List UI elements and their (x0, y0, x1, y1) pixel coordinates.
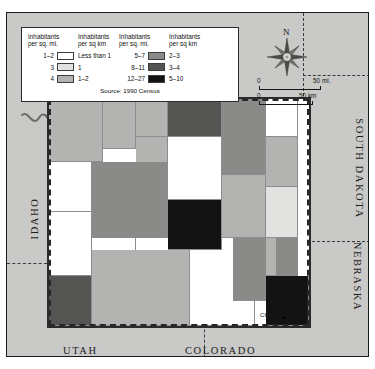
legend-row: 41–2 (28, 74, 111, 83)
legend-row: 12–275–10 (119, 74, 200, 83)
legend-range-per-sq-mi: 1–2 (28, 52, 54, 59)
legend-columns: Inhabitantsper sq. mi.Inhabitantsper sq … (28, 33, 232, 83)
state-label-nebraska: NEBRASKA (352, 237, 363, 317)
county-uinta (49, 276, 92, 326)
state-label-south-dakota: SOUTH DAKOTA (354, 114, 365, 224)
legend-row: 5–72–3 (119, 51, 200, 60)
legend-range-per-sq-mi: 8–11 (119, 64, 145, 71)
legend-range-per-sq-km: 5–10 (169, 75, 183, 82)
county-laramie (266, 276, 309, 326)
legend-swatch (148, 75, 165, 83)
legend-row: 1–2Less than 1 (28, 51, 111, 60)
county-big-horn (103, 99, 136, 149)
scale-km-zero: 0 (257, 92, 261, 99)
county-park (49, 99, 103, 162)
legend-column-2-headers: Inhabitantsper sq. mi.Inhabitantsper sq … (119, 33, 200, 51)
state-label-colorado: COLORADO (185, 345, 256, 356)
legend-range-per-sq-km: 1–2 (78, 75, 89, 82)
legend-range-per-sq-mi: 12–27 (119, 75, 145, 82)
scale-miles-zero: 0 (257, 77, 261, 84)
scale-kilometers: 0 50 km (257, 92, 347, 104)
compass-and-scale: N (255, 27, 347, 102)
county-johnson (168, 137, 222, 200)
scale-km-unit: 50 km (299, 92, 316, 99)
county-sweetwater (92, 250, 190, 326)
county-converse (222, 175, 265, 238)
legend-row: 31 (28, 63, 111, 72)
legend-header-per-sq-mi: Inhabitantsper sq. mi. (119, 33, 148, 48)
county-teton (49, 162, 92, 212)
legend-header-per-sq-km: Inhabitantsper sq km (169, 33, 200, 48)
county-niobrara (266, 187, 299, 237)
legend-column-1: Inhabitantsper sq. mi.Inhabitantsper sq … (28, 33, 111, 83)
state-label-idaho: IDAHO (29, 184, 40, 254)
compass-north-label: N (283, 27, 290, 37)
county-lincoln (49, 212, 92, 275)
county-campbell (222, 99, 265, 175)
legend-swatch (57, 63, 74, 71)
legend-source-note: Source: 1990 Census (28, 87, 232, 94)
legend: Inhabitantsper sq. mi.Inhabitantsper sq … (21, 27, 239, 102)
wyoming-state-body (49, 99, 309, 326)
legend-swatch (148, 63, 165, 71)
compass-rose-icon (265, 37, 309, 77)
legend-range-per-sq-mi: 5–7 (119, 52, 145, 59)
state-label-utah: UTAH (63, 345, 98, 356)
legend-range-per-sq-km: 3–4 (169, 64, 180, 71)
scale-km-bar (259, 101, 313, 105)
legend-column-2-rows: 5–72–38–113–412–275–10 (119, 51, 200, 83)
border-idaho-utah (7, 263, 47, 264)
scale-miles-bar (259, 86, 321, 90)
legend-range-per-sq-mi: 4 (28, 75, 54, 82)
scale-miles-unit: 50 mi. (313, 77, 330, 84)
legend-swatch (57, 75, 74, 83)
legend-header-per-sq-mi: Inhabitantsper sq. mi. (28, 33, 57, 48)
legend-swatch (148, 52, 165, 60)
legend-column-1-rows: 1–2Less than 13141–2 (28, 51, 111, 83)
legend-range-per-sq-km: 1 (78, 64, 82, 71)
map-frame: Cheyenne IDAHO SOUTH DAKOTA NEBRASKA UTA… (6, 12, 369, 357)
scale-miles: 0 50 mi. (257, 77, 347, 89)
county-weston (266, 137, 299, 187)
county-natrona (168, 200, 222, 250)
legend-header-per-sq-km: Inhabitantsper sq km (78, 33, 109, 48)
legend-column-2: Inhabitantsper sq. mi.Inhabitantsper sq … (119, 33, 200, 83)
scale-bars: 0 50 mi. 0 50 km (257, 77, 347, 103)
city-label-cheyenne: Cheyenne (260, 312, 288, 318)
county-fremont (92, 162, 168, 238)
legend-swatch (57, 52, 74, 60)
county-sheridan (168, 99, 222, 137)
legend-range-per-sq-km: 2–3 (169, 52, 180, 59)
county-grid (49, 99, 309, 326)
legend-range-per-sq-km: Less than 1 (78, 52, 111, 59)
legend-range-per-sq-mi: 3 (28, 64, 54, 71)
legend-column-1-headers: Inhabitantsper sq. mi.Inhabitantsper sq … (28, 33, 111, 51)
legend-row: 8–113–4 (119, 63, 200, 72)
wyoming-population-density-map: Cheyenne IDAHO SOUTH DAKOTA NEBRASKA UTA… (0, 0, 375, 369)
county-washakie (136, 99, 169, 137)
